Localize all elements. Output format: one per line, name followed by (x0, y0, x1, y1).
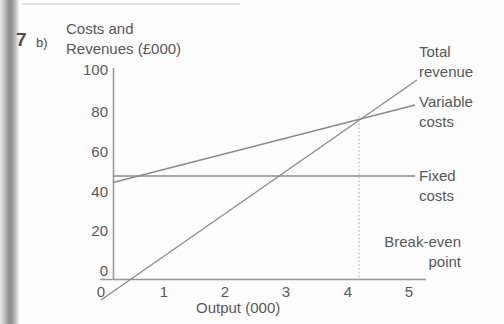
series-label-total-revenue: Total revenue (419, 42, 473, 82)
y-tick-label-60: 60 (62, 143, 108, 160)
series-label-fixed-costs: Fixed costs (419, 166, 456, 206)
annotation-break-even-point: Break-even point (357, 232, 461, 272)
y-tick-label-20: 20 (62, 222, 108, 239)
x-tick-label-5: 5 (396, 283, 422, 300)
x-tick-label-3: 3 (273, 283, 299, 300)
x-tick-label-0: 0 (88, 283, 114, 300)
x-tick-label-4: 4 (335, 283, 361, 300)
x-axis-title: Output (000) (196, 299, 280, 316)
series-label-variable-costs: Variable costs (419, 92, 473, 132)
y-tick-label-0: 0 (62, 262, 108, 279)
series-line-variable-costs (113, 105, 415, 183)
x-tick-label-2: 2 (212, 283, 238, 300)
y-tick-label-100: 100 (62, 61, 108, 78)
x-tick-label-1: 1 (151, 283, 177, 300)
y-tick-label-40: 40 (62, 183, 108, 200)
scanned-page: 7 b) Costs and Revenues (£000) 100 80 60… (0, 0, 504, 324)
y-tick-label-80: 80 (62, 103, 108, 120)
